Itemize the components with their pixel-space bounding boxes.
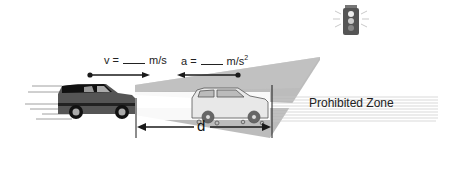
velocity-prefix: v =: [104, 54, 119, 66]
acceleration-unit-exponent: 2: [244, 54, 248, 61]
acceleration-label: a =m/s2: [181, 54, 248, 67]
acceleration-unit: m/s: [227, 55, 245, 67]
traffic-light-icon: [333, 5, 369, 35]
velocity-label: v =m/s: [104, 54, 167, 66]
suv-icon: [58, 84, 135, 119]
velocity-vector: [87, 72, 150, 78]
physics-diagram: v =m/s a =m/s2 d Prohibited Zone: [0, 0, 458, 169]
diagram-graphics: [0, 0, 458, 169]
prohibited-zone-label: Prohibited Zone: [309, 96, 394, 110]
acceleration-prefix: a =: [181, 55, 197, 67]
acceleration-blank: [201, 55, 223, 65]
distance-label: d: [197, 117, 205, 134]
velocity-blank: [123, 54, 145, 64]
velocity-unit: m/s: [149, 54, 167, 66]
